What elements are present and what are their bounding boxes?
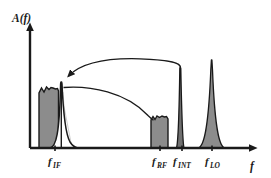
tick-label-f-if-sub: IF	[52, 161, 61, 170]
tick-label-f-int: f INT	[173, 155, 191, 170]
tick-label-f-if: f IF	[48, 155, 61, 170]
spectrum-plot: A(f) f f IF f RF f INT f LO	[0, 0, 271, 178]
tick-label-f-rf-sub: RF	[156, 161, 167, 170]
int-spike-trace	[177, 67, 185, 148]
spectrum-figure: A(f) f f IF f RF f INT f LO	[0, 0, 271, 178]
lo-spike-trace	[198, 60, 225, 148]
x-axis-label: f	[250, 160, 255, 173]
rf-band-trace	[151, 116, 168, 148]
tick-label-f-lo: f LO	[205, 155, 221, 170]
y-axis-label: A(f)	[11, 12, 31, 25]
tick-label-f-int-sub: INT	[177, 161, 191, 170]
mixing-arc-rf	[64, 87, 154, 120]
mixing-arc-interferer	[69, 59, 181, 76]
tick-label-f-rf: f RF	[152, 155, 167, 170]
tick-label-f-lo-sub: LO	[209, 161, 221, 170]
